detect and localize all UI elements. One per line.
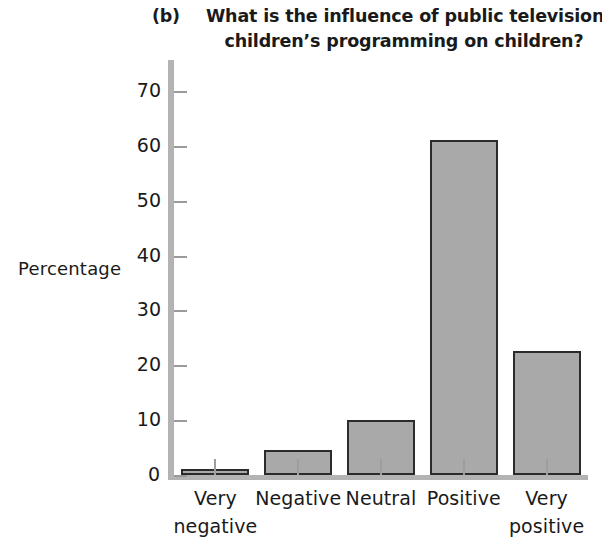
- x-tick: [214, 459, 216, 475]
- y-axis-title: Percentage: [18, 258, 121, 279]
- panel-letter: (b): [152, 4, 180, 29]
- x-tick: [546, 459, 548, 475]
- y-tick-label-60: 60: [137, 134, 161, 156]
- y-tick-label-10: 10: [137, 408, 161, 430]
- figure-title-line-2: children’s programming on children?: [206, 29, 596, 54]
- chart-plot-area: 010203040506070: [168, 60, 588, 480]
- bar[interactable]: [430, 140, 498, 475]
- y-tick-label-70: 70: [137, 79, 161, 101]
- y-tick-label-40: 40: [137, 244, 161, 266]
- x-tick: [463, 459, 465, 475]
- figure-title-block: (b) What is the influence of public tele…: [0, 4, 602, 54]
- y-tick-label-20: 20: [137, 353, 161, 375]
- y-tick-label-50: 50: [137, 189, 161, 211]
- y-tick-label-30: 30: [137, 298, 161, 320]
- x-axis-label-line-2: negative: [160, 512, 270, 540]
- figure-title-line-1: What is the influence of public televisi…: [206, 4, 596, 29]
- x-axis-label-line-1: Very: [492, 484, 602, 512]
- bar-series: [174, 60, 588, 477]
- x-tick: [380, 459, 382, 475]
- x-tick: [297, 459, 299, 475]
- x-axis-label-4: Verypositive: [492, 484, 602, 540]
- figure-title: What is the influence of public televisi…: [206, 4, 596, 54]
- y-tick-label-0: 0: [148, 463, 160, 485]
- x-axis-labels: VerynegativeNegativeNeutralPositiveVeryp…: [168, 484, 594, 554]
- bar[interactable]: [513, 351, 581, 475]
- x-axis-label-line-2: positive: [492, 512, 602, 540]
